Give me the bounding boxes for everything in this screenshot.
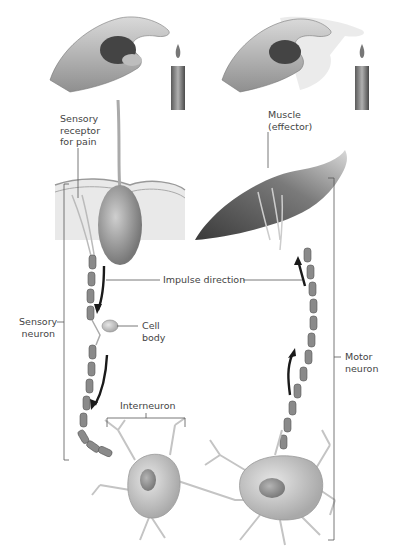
motor-neuron-cell (205, 430, 335, 545)
label-sensory-neuron: Sensory neuron (19, 316, 55, 339)
label-impulse-direction: Impulse direction (163, 274, 245, 286)
arrow-up-2 (288, 355, 292, 395)
label-line: (effector) (268, 121, 312, 133)
label-line: neuron (19, 328, 55, 340)
label-interneuron: Interneuron (120, 400, 176, 412)
label-motor-neuron: Motor neuron (345, 351, 378, 374)
label-muscle-effector: Muscle (effector) (268, 109, 312, 132)
interneuron-bracket (107, 418, 185, 427)
label-line: Sensory (19, 316, 55, 328)
label-line: Cell (142, 320, 166, 332)
candle-right-icon (355, 44, 369, 110)
hand-right-illustration (222, 17, 364, 92)
sensory-cell-body (102, 320, 118, 332)
candle-left-icon (171, 44, 185, 110)
label-line: Motor (345, 351, 378, 363)
arrow-down-1 (98, 266, 104, 310)
label-line: neuron (345, 363, 378, 375)
motor-axon (280, 248, 317, 449)
motor-neuron-bracket (328, 178, 334, 540)
interneuron-cell (92, 418, 260, 540)
arrowhead-up-2 (288, 348, 296, 358)
arrowhead-up-1 (294, 256, 302, 265)
label-line: receptor (60, 125, 100, 137)
muscle-illustration (195, 150, 347, 250)
hand-left-illustration (50, 17, 169, 92)
arrowhead-down-1 (94, 304, 102, 314)
arrow-down-2 (95, 355, 107, 405)
label-line: Sensory (60, 113, 100, 125)
label-line: body (142, 332, 166, 344)
label-line: Muscle (268, 109, 312, 121)
label-line: for pain (60, 136, 100, 148)
label-cell-body: Cell body (142, 320, 166, 343)
label-sensory-receptor: Sensory receptor for pain (60, 113, 100, 148)
